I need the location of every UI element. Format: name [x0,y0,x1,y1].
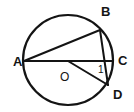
point-label-c: C [118,53,128,68]
segment-ab-chord [24,30,100,61]
geometry-figure: A B C D O 1 [0,0,134,112]
point-label-b: B [101,4,110,19]
point-label-a: A [13,54,23,69]
angle-marker-1: 1 [98,64,104,75]
geometry-canvas: A B C D O 1 [0,0,134,112]
point-label-d: D [113,87,122,102]
point-label-o-center: O [60,70,69,84]
